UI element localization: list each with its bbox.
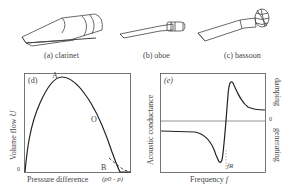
panel-e-xlabel-text: Frequency	[190, 175, 224, 184]
fr-marker-label: fR	[227, 162, 233, 170]
panel-d-ylabel: Volume flow U	[9, 111, 18, 160]
caption-bassoon: (c) bassoon	[224, 51, 261, 60]
bassoon-reed-icon	[198, 9, 269, 41]
panel-e-frame	[161, 74, 266, 173]
panel-e-zero-label: 0	[269, 116, 272, 122]
point-o-label: O	[91, 115, 97, 124]
panel-d-xlabel-symbol: (p0 - p)	[102, 175, 123, 183]
damping-label: damping	[273, 78, 282, 106]
panel-d-origin-label: 0	[17, 166, 20, 172]
panel-e-curve	[161, 82, 265, 163]
panel-d-xlabel: Pressure difference	[27, 175, 88, 184]
figure-canvas	[0, 0, 289, 193]
panel-d-curve	[25, 77, 131, 172]
panel-e-xlabel: Frequency f	[190, 175, 228, 184]
panel-e-ylabel: Acoustic conductance	[146, 95, 155, 165]
panel-d-ylabel-symbol: U	[9, 111, 18, 117]
oboe-reed-icon	[120, 22, 185, 38]
point-a-label: A	[52, 71, 58, 80]
panel-e-xlabel-symbol: f	[226, 175, 228, 184]
caption-clarinet: (a) clarinet	[44, 51, 79, 60]
point-b-label: B	[101, 163, 106, 172]
panel-d-ylabel-text: Volume flow	[9, 119, 18, 160]
generating-label: generating	[273, 128, 282, 162]
clarinet-mouthpiece-icon	[22, 14, 102, 46]
panel-d-tag: (d)	[28, 76, 37, 85]
caption-oboe: (b) oboe	[143, 51, 170, 60]
panel-e-tag: (e)	[164, 76, 173, 85]
